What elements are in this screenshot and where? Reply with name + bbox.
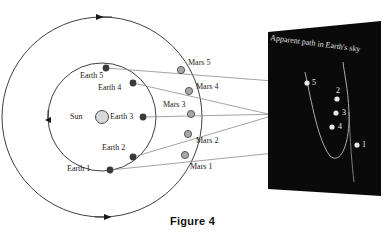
sky-point-1 <box>354 142 359 147</box>
mars-dot-3 <box>187 110 194 117</box>
earth-label-1: Earth 1 <box>67 165 90 173</box>
mars-label-5: Mars 5 <box>188 59 210 67</box>
earth-label-5: Earth 5 <box>80 72 103 80</box>
mars-label-2: Mars 2 <box>196 137 218 145</box>
sky-point-label-3: 3 <box>342 109 346 117</box>
diagram-canvas <box>0 0 385 240</box>
sun-label: Sun <box>70 113 82 121</box>
sky-point-3 <box>333 110 338 115</box>
mars-dot-2 <box>184 130 191 137</box>
sky-point-2 <box>334 96 339 101</box>
sun-marker <box>96 111 109 124</box>
mars-dot-5 <box>177 66 184 73</box>
sky-point-label-2: 2 <box>336 87 340 95</box>
mars-label-1: Mars 1 <box>190 163 212 171</box>
sky-point-label-1: 1 <box>362 141 366 149</box>
earth-label-4: Earth 4 <box>98 84 121 92</box>
earth-dot-4 <box>130 80 137 87</box>
sky-point-5 <box>304 80 309 85</box>
earth-dot-5 <box>103 65 110 72</box>
mars-label-3: Mars 3 <box>163 101 185 109</box>
mars-label-4: Mars 4 <box>196 83 218 91</box>
earth-dot-1 <box>107 167 114 174</box>
earth-dot-2 <box>130 154 137 161</box>
sky-point-4 <box>329 124 334 129</box>
earth-label-2: Earth 2 <box>102 144 125 152</box>
mars-dot-4 <box>185 87 192 94</box>
sky-point-label-5: 5 <box>312 79 316 87</box>
figure-caption: Figure 4 <box>0 215 385 227</box>
sky-point-label-4: 4 <box>338 123 342 131</box>
figure-retrograde-motion: Apparent path in Earth's sky 5 2 3 4 1 S… <box>0 0 385 240</box>
mars-position-markers <box>177 66 194 158</box>
mars-dot-1 <box>181 151 188 158</box>
earth-dot-3 <box>140 114 147 121</box>
earth-label-3: Earth 3 <box>110 113 133 121</box>
